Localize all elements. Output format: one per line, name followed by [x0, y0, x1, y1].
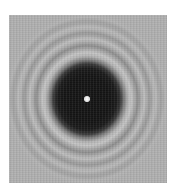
diffraction-pattern-photo — [9, 15, 167, 183]
central-bright-spot — [84, 96, 90, 102]
